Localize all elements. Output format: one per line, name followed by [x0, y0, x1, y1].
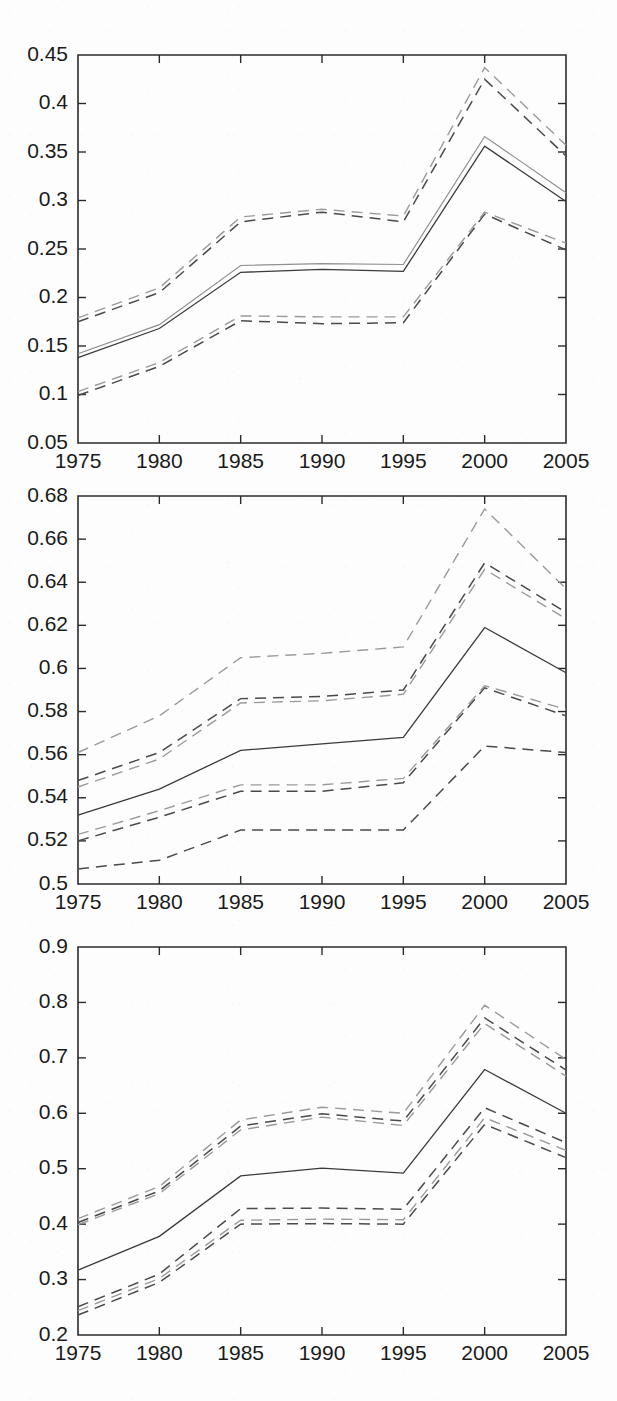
series-line-upper-ci-outer: [78, 509, 566, 753]
series-line-lower-ci-a: [78, 1124, 566, 1315]
x-tick-label: 1975: [55, 1341, 102, 1364]
multi-panel-figure: 0.050.10.150.20.250.30.350.40.45 1975198…: [0, 0, 617, 1401]
x-tick-label: 1995: [380, 890, 427, 913]
y-tick-label: 0.7: [39, 1044, 68, 1067]
y-tick-label: 0.56: [27, 741, 68, 764]
y-tick-label: 0.1: [39, 381, 68, 404]
y-tick-label: 0.8: [39, 989, 68, 1012]
panel-3-x-ticks: [159, 947, 484, 1335]
series-line-upper-ci-b: [78, 1018, 566, 1223]
panel-1-axis-box: [78, 55, 566, 443]
panel-3-x-tick-labels: 1975198019851990199520002005: [55, 1341, 590, 1364]
y-tick-label: 0.35: [27, 139, 68, 162]
y-tick-label: 0.9: [39, 934, 68, 957]
panel-1-x-ticks: [159, 55, 484, 443]
chart-panel-2: 0.50.520.540.560.580.60.620.640.660.68 1…: [0, 460, 617, 930]
series-line-lower-ci-a: [78, 214, 566, 395]
y-tick-label: 0.2: [39, 284, 68, 307]
panel-2-x-ticks: [159, 496, 484, 884]
series-line-lower-ci-outer: [78, 1108, 566, 1307]
y-tick-label: 0.25: [27, 236, 68, 259]
x-tick-label: 1990: [299, 890, 346, 913]
series-line-estimate-a: [78, 146, 566, 357]
series-line-upper-ci-b: [78, 68, 566, 318]
x-tick-label: 1990: [299, 1341, 346, 1364]
panel-1-svg: 0.050.10.150.20.250.30.350.40.45 1975198…: [0, 0, 617, 480]
panel-3-series-group: [78, 1005, 566, 1315]
x-tick-label: 1985: [217, 890, 264, 913]
x-tick-label: 2005: [543, 890, 590, 913]
y-tick-label: 0.64: [27, 569, 68, 592]
series-line-estimate-a: [78, 627, 566, 815]
y-tick-label: 0.6: [39, 1100, 68, 1123]
x-tick-label: 2000: [461, 890, 508, 913]
y-tick-label: 0.58: [27, 698, 68, 721]
panel-2-plot-area: 0.50.520.540.560.580.60.620.640.660.68 1…: [27, 483, 589, 914]
panel-1-series-group: [78, 68, 566, 396]
y-tick-label: 0.62: [27, 612, 68, 635]
series-line-lower-ci-a: [78, 688, 566, 841]
series-line-upper-ci-b: [78, 563, 566, 781]
x-tick-label: 2000: [461, 1341, 508, 1364]
y-tick-label: 0.4: [39, 1211, 69, 1234]
panel-3-plot-area: 0.20.30.40.50.60.70.80.9 197519801985199…: [39, 934, 590, 1365]
y-tick-label: 0.68: [27, 483, 68, 506]
panel-2-series-group: [78, 509, 566, 869]
chart-panel-1: 0.050.10.150.20.250.30.350.40.45 1975198…: [0, 0, 617, 480]
panel-2-y-tick-labels: 0.50.520.540.560.580.60.620.640.660.68: [27, 483, 68, 894]
x-tick-label: 1980: [136, 1341, 183, 1364]
panel-3-y-ticks: [78, 1002, 566, 1279]
y-tick-label: 0.66: [27, 526, 68, 549]
x-tick-label: 1985: [217, 1341, 264, 1364]
series-line-lower-ci-b: [78, 1118, 566, 1311]
panel-1-y-tick-labels: 0.050.10.150.20.250.30.350.40.45: [27, 42, 68, 453]
x-tick-label: 1995: [380, 1341, 427, 1364]
panel-1-y-ticks: [78, 104, 566, 395]
x-tick-label: 1980: [136, 890, 183, 913]
y-tick-label: 0.52: [27, 827, 68, 850]
series-line-upper-ci-a: [78, 79, 566, 322]
y-tick-label: 0.15: [27, 333, 68, 356]
x-tick-label: 2005: [543, 1341, 590, 1364]
y-tick-label: 0.6: [39, 655, 68, 678]
series-line-estimate-a: [78, 1070, 566, 1271]
y-tick-label: 0.54: [27, 784, 68, 807]
panel-2-svg: 0.50.520.540.560.580.60.620.640.660.68 1…: [0, 460, 617, 930]
panel-3-y-tick-labels: 0.20.30.40.50.60.70.80.9: [39, 934, 69, 1345]
x-tick-label: 1975: [55, 890, 102, 913]
y-tick-label: 0.5: [39, 1155, 68, 1178]
series-line-lower-ci-b: [78, 686, 566, 835]
y-tick-label: 0.4: [39, 90, 69, 113]
y-tick-label: 0.3: [39, 1266, 68, 1289]
series-line-lower-ci-b: [78, 212, 566, 391]
panel-2-y-ticks: [78, 539, 566, 841]
panel-3-svg: 0.20.30.40.50.60.70.80.9 197519801985199…: [0, 925, 617, 1401]
panel-2-x-tick-labels: 1975198019851990199520002005: [55, 890, 590, 913]
chart-panel-3: 0.20.30.40.50.60.70.80.9 197519801985199…: [0, 925, 617, 1401]
series-line-estimate-b: [78, 136, 566, 353]
y-tick-label: 0.3: [39, 187, 68, 210]
panel-2-axis-box: [78, 496, 566, 884]
series-line-lower-ci-outer: [78, 746, 566, 869]
panel-1-plot-area: 0.050.10.150.20.250.30.350.40.45 1975198…: [27, 42, 589, 473]
series-line-upper-ci-a: [78, 569, 566, 787]
y-tick-label: 0.45: [27, 42, 68, 65]
